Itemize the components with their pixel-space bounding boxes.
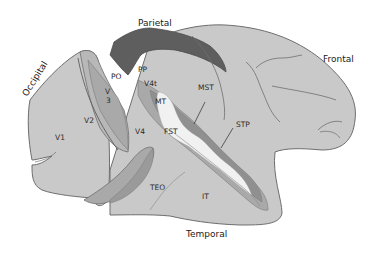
label-it: IT [202,192,209,201]
label-v4t: V4t [144,79,157,88]
label-v1: V1 [55,133,65,142]
label-mst: MST [198,83,214,92]
label-mt: MT [155,97,166,106]
label-pp: PP [138,65,148,74]
label-parietal: Parietal [138,18,172,28]
brain-diagram: Parietal Frontal Temporal Occipital V1 V… [0,0,378,253]
label-temporal: Temporal [185,229,227,239]
label-stp: STP [236,120,250,129]
label-teo: TEO [149,183,165,192]
label-v3-bottom: 3 [106,96,111,105]
label-v2: V2 [84,116,94,125]
label-po: PO [111,72,122,81]
label-frontal: Frontal [323,54,354,64]
label-fst: FST [164,127,178,136]
label-v4: V4 [135,127,145,136]
label-v3-top: V [105,87,111,96]
brain-hemisphere [110,25,355,225]
